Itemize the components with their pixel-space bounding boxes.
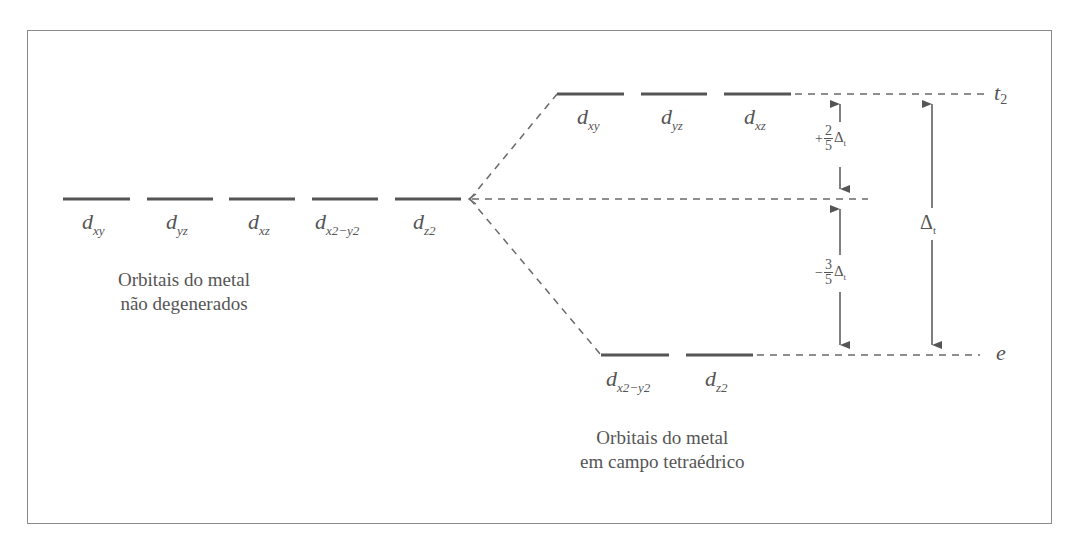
caption-line: em campo tetraédrico (580, 450, 745, 474)
level-name-e: e (996, 340, 1006, 366)
orbital-label-dyz-t2: dyz (661, 104, 683, 134)
orbital-label-dxz: dxz (248, 209, 270, 239)
level-name-t2: t2 (994, 80, 1007, 108)
delta-t-label: Δt (920, 211, 936, 236)
orbital-label-dx2-y2: dx2−y2 (315, 209, 359, 239)
caption-line: não degenerados (118, 292, 250, 316)
dashed-connectors (470, 94, 985, 355)
connector-up (470, 94, 557, 199)
orbital-label-dx2-y2-e: dx2−y2 (606, 366, 650, 396)
caption-line: Orbitais do metal (580, 426, 745, 450)
orbital-label-dyz: dyz (166, 209, 188, 239)
energy-label-plus-2-5: + 25 Δt (815, 124, 846, 153)
connector-down (470, 199, 601, 355)
orbital-label-dz2: dz2 (413, 209, 436, 239)
orbital-label-dxy-t2: dxy (577, 104, 600, 134)
caption-degenerate: Orbitais do metal não degenerados (118, 268, 250, 316)
orbital-label-dz2-e: dz2 (705, 366, 728, 396)
orbital-label-dxy: dxy (82, 209, 105, 239)
energy-label-minus-3-5: − 35 Δt (815, 258, 846, 287)
caption-tetrahedral: Orbitais do metal em campo tetraédrico (580, 426, 745, 474)
energy-arrows (840, 104, 932, 345)
caption-line: Orbitais do metal (118, 268, 250, 292)
orbital-label-dxz-t2: dxz (744, 104, 766, 134)
